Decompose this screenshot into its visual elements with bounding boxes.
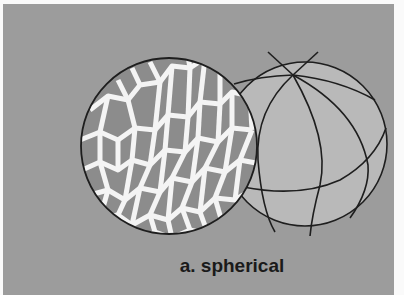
cellular-sphere [80,56,257,240]
figure-caption: a. spherical [0,255,404,277]
spheres-illustration [0,0,404,295]
